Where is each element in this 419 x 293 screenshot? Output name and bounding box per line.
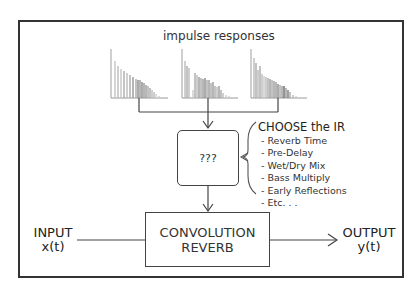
input-signal: x(t) xyxy=(30,240,76,254)
choose-ir-item: - Bass Multiply xyxy=(261,172,347,184)
impulse-response-2 xyxy=(182,49,238,98)
output-arrow xyxy=(270,234,337,246)
impulse-response-1 xyxy=(111,49,168,98)
ir-selector-box: ??? xyxy=(177,130,239,186)
convolution-reverb-box: CONVOLUTION REVERB xyxy=(145,212,270,267)
choose-ir-heading: CHOOSE the IR xyxy=(258,121,345,134)
output-signal: y(t) xyxy=(340,240,398,254)
choose-ir-item: - Reverb Time xyxy=(261,135,347,147)
brace-icon xyxy=(241,122,256,194)
selector-to-reverb-arrow xyxy=(203,186,213,211)
ir-selector-label: ??? xyxy=(199,152,217,165)
convolution-reverb-line1: CONVOLUTION xyxy=(160,225,256,240)
choose-ir-item: - Wet/Dry Mix xyxy=(261,160,347,172)
impulse-response-3 xyxy=(251,49,307,98)
impulse-responses-title: impulse responses xyxy=(163,29,275,43)
output-label: OUTPUT y(t) xyxy=(340,226,398,254)
convolution-reverb-line2: REVERB xyxy=(181,240,233,255)
choose-ir-list: - Reverb Time - Pre-Delay - Wet/Dry Mix … xyxy=(261,135,347,209)
choose-ir-item: - Pre-Delay xyxy=(261,147,347,159)
output-title: OUTPUT xyxy=(340,226,398,240)
input-label: INPUT x(t) xyxy=(30,226,76,254)
choose-ir-item: - Early Reflections xyxy=(261,185,347,197)
choose-ir-item: - Etc. . . xyxy=(261,197,347,209)
input-title: INPUT xyxy=(30,226,76,240)
